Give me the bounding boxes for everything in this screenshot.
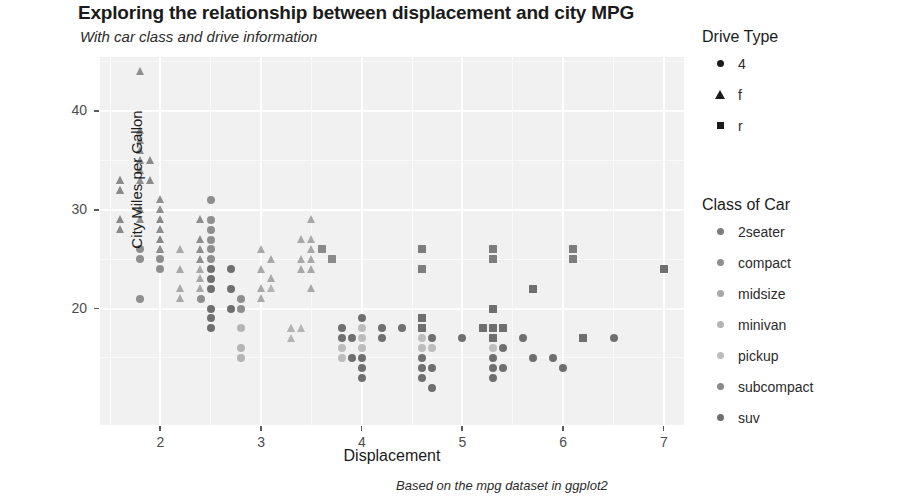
data-point-square (579, 334, 587, 342)
data-point-circle (207, 245, 215, 253)
data-point-circle (358, 334, 366, 342)
data-point-square (418, 314, 426, 322)
data-point-circle (227, 305, 235, 313)
data-point-square (489, 245, 497, 253)
data-point-square (328, 255, 336, 263)
data-point-circle (338, 344, 346, 352)
legend-item-class-compact[interactable]: compact (702, 247, 813, 278)
legend-item-class-pickup[interactable]: pickup (702, 340, 813, 371)
legend-item-drive-4[interactable]: 4 (702, 48, 778, 79)
gridline-horizontal (100, 357, 684, 358)
data-point-triangle (196, 284, 204, 292)
data-point-circle (338, 324, 346, 332)
data-point-triangle (287, 334, 295, 342)
gridline-horizontal (100, 160, 684, 161)
data-point-square (479, 324, 487, 332)
data-point-triangle (307, 265, 315, 273)
legend-item-class-2seater[interactable]: 2seater (702, 216, 813, 247)
x-tick-mark (159, 426, 161, 431)
gridline-horizontal (100, 110, 684, 112)
data-point-triangle (196, 245, 204, 253)
legend-item-label: midsize (738, 286, 785, 302)
data-point-circle (398, 324, 406, 332)
data-point-circle (378, 334, 386, 342)
data-point-circle (358, 324, 366, 332)
legend-drive-type-title: Drive Type (702, 28, 778, 46)
data-point-circle (418, 334, 426, 342)
data-point-circle (207, 236, 215, 244)
data-point-circle (499, 344, 507, 352)
legend-item-class-subcompact[interactable]: subcompact (702, 371, 813, 402)
data-point-circle (489, 374, 497, 382)
data-point-triangle (307, 284, 315, 292)
legend-item-drive-r[interactable]: r (702, 110, 778, 141)
circle-marker-icon (702, 290, 738, 297)
x-tick-mark (361, 426, 363, 431)
data-point-triangle (176, 284, 184, 292)
legend-item-label: 2seater (738, 224, 785, 240)
y-tick-mark (94, 110, 99, 112)
data-point-circle (237, 354, 245, 362)
data-point-circle (358, 344, 366, 352)
data-point-circle (418, 374, 426, 382)
data-point-triangle (267, 255, 275, 263)
data-point-circle (458, 334, 466, 342)
legend-car-class: Class of Car 2seatercompactmidsizeminiva… (702, 196, 813, 433)
legend-item-drive-f[interactable]: f (702, 79, 778, 110)
data-point-circle (418, 344, 426, 352)
data-point-circle (358, 354, 366, 362)
data-point-square (660, 265, 668, 273)
data-point-square (418, 324, 426, 332)
data-point-triangle (267, 284, 275, 292)
data-point-square (489, 305, 497, 313)
chart-subtitle: With car class and drive information (80, 28, 317, 45)
circle-marker-icon (702, 383, 738, 390)
data-point-triangle (257, 245, 265, 253)
data-point-triangle (297, 265, 305, 273)
data-point-circle (197, 295, 205, 303)
chart-root: Exploring the relationship between displ… (0, 0, 897, 503)
data-point-circle (207, 314, 215, 322)
chart-caption: Based on the mpg dataset in ggplot2 (396, 478, 608, 493)
data-point-triangle (176, 294, 184, 302)
data-point-circle (207, 226, 215, 234)
x-tick-mark (461, 426, 463, 431)
data-point-circle (348, 354, 356, 362)
data-point-circle (428, 344, 436, 352)
legend-item-class-minivan[interactable]: minivan (702, 309, 813, 340)
data-point-circle (489, 354, 497, 362)
data-point-triangle (257, 294, 265, 302)
data-point-triangle (196, 235, 204, 243)
data-point-circle (207, 255, 215, 263)
data-point-circle (237, 324, 245, 332)
y-tick-label: 30 (71, 201, 87, 217)
legend-drive-type: Drive Type 4fr (702, 28, 778, 141)
plot-panel (100, 57, 684, 425)
data-point-circle (338, 354, 346, 362)
data-point-circle (237, 295, 245, 303)
data-point-circle (338, 334, 346, 342)
data-point-square (489, 334, 497, 342)
data-point-circle (207, 275, 215, 283)
data-point-circle (227, 265, 235, 273)
data-point-triangle (156, 195, 164, 203)
x-tick-mark (562, 426, 564, 431)
data-point-circle (358, 314, 366, 322)
data-point-triangle (307, 235, 315, 243)
data-point-circle (207, 196, 215, 204)
data-point-triangle (116, 225, 124, 233)
data-point-circle (499, 364, 507, 372)
legend-car-class-title: Class of Car (702, 196, 813, 214)
legend-item-class-suv[interactable]: suv (702, 402, 813, 433)
data-point-circle (207, 216, 215, 224)
data-point-circle (610, 334, 618, 342)
legend-item-label: r (738, 118, 743, 134)
data-point-circle (237, 305, 245, 313)
data-point-triangle (287, 324, 295, 332)
y-tick-mark (94, 308, 99, 310)
x-tick-mark (260, 426, 262, 431)
legend-item-class-midsize[interactable]: midsize (702, 278, 813, 309)
data-point-triangle (196, 274, 204, 282)
data-point-triangle (297, 324, 305, 332)
data-point-triangle (156, 215, 164, 223)
